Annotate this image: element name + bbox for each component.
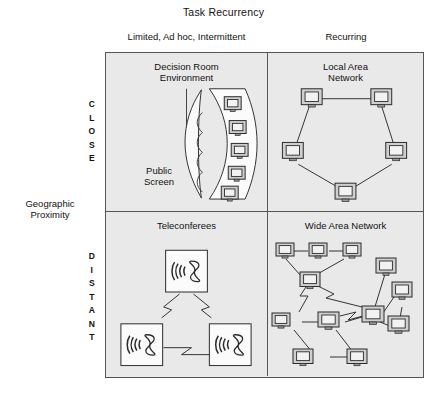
computer-node <box>335 183 356 201</box>
computer-node <box>231 143 248 158</box>
quadrant-teleconferees: Teleconferees <box>106 212 268 376</box>
public-screen-label-line2: Screen <box>124 176 194 187</box>
public-screen-label: Public Screen <box>124 165 194 187</box>
quadrant-wide-area-network: Wide Area Network <box>268 212 423 376</box>
computer-node <box>309 243 327 258</box>
row-header-close: CLOSE <box>84 98 100 166</box>
quadrant-decision-room: Decision Room Environment <box>106 53 268 212</box>
computer-node <box>301 89 322 107</box>
wide-area-network-illustration <box>268 212 423 376</box>
row-header-distant: DISTANT <box>84 250 100 345</box>
computer-node <box>376 258 396 275</box>
column-header-recurring: Recurring <box>268 31 424 42</box>
column-header-limited: Limited, Ad hoc, Intermittent <box>105 31 268 42</box>
computer-node <box>224 97 241 112</box>
telephone-icon <box>121 324 163 366</box>
teleconferees-illustration <box>106 212 267 376</box>
computer-node <box>272 313 290 328</box>
computer-node <box>229 121 246 136</box>
y-axis-title-line2: Proximity <box>6 209 94 220</box>
matrix-grid: Decision Room Environment <box>105 52 424 378</box>
computer-node <box>386 142 407 160</box>
public-screen-label-line1: Public <box>124 165 194 176</box>
decision-room-illustration <box>106 53 267 211</box>
y-axis-title: Geographic Proximity <box>6 198 94 220</box>
computer-node <box>362 306 384 324</box>
computer-node <box>371 89 392 107</box>
local-area-network-illustration <box>268 53 423 211</box>
quadrant-local-area-network: Local Area Network <box>268 53 423 212</box>
computer-node <box>300 272 320 289</box>
computer-node <box>282 142 303 160</box>
telephone-icon <box>209 324 251 366</box>
computer-node <box>318 312 339 329</box>
computer-node <box>392 282 412 299</box>
telephone-icon <box>166 250 208 292</box>
computer-node <box>343 243 361 258</box>
y-axis-title-line1: Geographic <box>6 198 94 209</box>
computer-node <box>347 349 367 366</box>
computer-node <box>221 186 238 201</box>
page-title: Task Recurrency <box>0 6 447 18</box>
computer-node <box>293 349 313 366</box>
lan-links <box>294 99 395 186</box>
lightning-connector <box>162 294 212 355</box>
computer-node <box>276 243 294 258</box>
computer-node <box>388 316 409 333</box>
computer-node <box>228 166 245 181</box>
